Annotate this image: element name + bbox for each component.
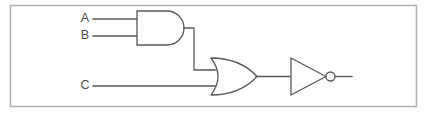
and-gate-body [137,11,184,45]
logic-circuit-figure: A B C [0,0,427,114]
label-input-b: B [81,28,89,42]
or-gate-body [211,58,257,95]
not-gate-triangle [291,58,326,95]
label-input-c: C [80,78,89,92]
label-input-a: A [81,11,90,25]
circuit-diagram-canvas: A B C [0,0,427,114]
wire-and-to-or [184,28,216,70]
not-gate-inversion-bubble [326,72,335,81]
